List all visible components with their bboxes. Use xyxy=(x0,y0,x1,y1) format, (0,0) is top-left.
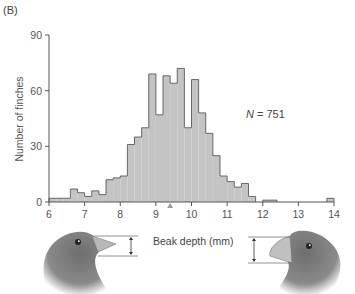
histogram-bar xyxy=(206,133,213,202)
histogram-bar xyxy=(99,195,106,202)
n-value: = 751 xyxy=(254,108,285,120)
x-tick-label: 6 xyxy=(46,208,52,220)
histogram-bar xyxy=(70,189,77,202)
histogram-bar xyxy=(213,156,220,202)
histogram-bar xyxy=(220,176,227,202)
y-tick-label: 90 xyxy=(30,29,42,41)
histogram-bar xyxy=(92,191,99,202)
histogram-bar xyxy=(113,178,120,202)
histogram-bars xyxy=(49,68,334,202)
histogram-bar xyxy=(120,176,127,202)
histogram-bar xyxy=(106,180,113,202)
x-tick-label: 8 xyxy=(117,208,123,220)
histogram-bar xyxy=(78,193,85,202)
x-tick-label: 9 xyxy=(153,208,159,220)
x-tick-label: 10 xyxy=(186,208,198,220)
histogram-bar xyxy=(170,83,177,202)
y-tick-label: 60 xyxy=(30,85,42,97)
histogram-bar xyxy=(241,183,248,202)
histogram-bar xyxy=(227,182,234,202)
histogram-bar xyxy=(135,137,142,202)
x-axis-title: Beak depth (mm) xyxy=(153,235,234,247)
x-tick-label: 11 xyxy=(222,208,233,220)
small-beak-finch-illustration xyxy=(44,232,138,294)
histogram-bar xyxy=(184,128,191,202)
histogram-bar xyxy=(156,115,163,202)
histogram-bar xyxy=(127,144,134,202)
y-tick-label: 30 xyxy=(30,140,42,152)
histogram-bar xyxy=(192,80,199,202)
histogram-bar xyxy=(177,68,184,202)
histogram-bar xyxy=(199,113,206,202)
histogram-bar xyxy=(85,196,92,202)
histogram-bar xyxy=(234,187,241,202)
x-tick-label: 14 xyxy=(328,208,340,220)
x-tick-label: 12 xyxy=(257,208,269,220)
histogram-bar xyxy=(249,196,256,202)
x-tick-label: 13 xyxy=(293,208,305,220)
x-tick-label: 7 xyxy=(82,208,88,220)
histogram-chart: 030609067891011121314 Number of finches xyxy=(0,0,355,294)
n-symbol: N xyxy=(246,108,254,120)
large-beak-finch-illustration xyxy=(248,231,340,294)
y-tick-label: 0 xyxy=(36,196,42,208)
histogram-bar xyxy=(149,74,156,202)
histogram-bar xyxy=(163,76,170,202)
sample-size-annotation: N = 751 xyxy=(246,108,285,120)
mean-marker-icon xyxy=(167,203,173,208)
y-axis-title: Number of finches xyxy=(13,76,25,161)
histogram-bar xyxy=(142,128,149,202)
